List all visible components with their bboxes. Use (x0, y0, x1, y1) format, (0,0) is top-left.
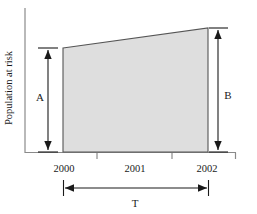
dimension-a-arrow-down (44, 141, 51, 150)
dimension-t-arrow-left (65, 184, 74, 191)
y-axis-label: Population at risk (3, 50, 14, 125)
x-tick-label-2001: 2001 (125, 163, 146, 174)
dimension-b-arrow-up (214, 30, 221, 39)
x-tick-label-2002: 2002 (197, 163, 218, 174)
dimension-a-arrow-up (44, 50, 51, 59)
figure-container: A B 2000 2001 2002 T Population at risk (0, 0, 257, 214)
dimension-b-arrow-down (214, 141, 221, 150)
dimension-b-label: B (224, 89, 231, 101)
dimension-t-label: T (132, 197, 139, 209)
population-at-risk-diagram: A B 2000 2001 2002 T Population at risk (0, 0, 257, 214)
dimension-t-arrow-right (198, 184, 207, 191)
population-area-polygon (63, 28, 208, 152)
x-tick-label-2000: 2000 (54, 163, 75, 174)
dimension-a-label: A (36, 91, 44, 103)
